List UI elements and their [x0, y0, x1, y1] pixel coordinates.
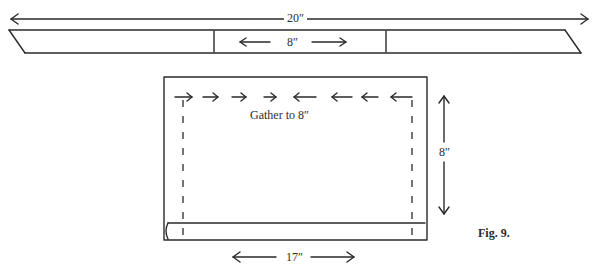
panel-width-label: 17″ — [284, 251, 305, 263]
gather-instruction: Gather to 8″ — [250, 109, 309, 121]
gather-arrows — [175, 93, 412, 101]
skirt-panel — [164, 77, 427, 240]
center-section-label: 8″ — [285, 36, 300, 48]
strip-length-label: 20″ — [284, 12, 307, 24]
figure-caption: Fig. 9. — [478, 226, 510, 241]
panel-height-label: 8″ — [438, 146, 451, 158]
